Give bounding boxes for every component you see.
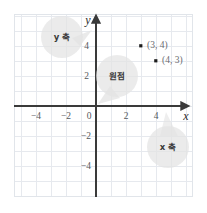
y-tick-4: 4 (84, 41, 89, 51)
coordinate-plane-figure: x y −4 −2 0 2 4 4 2 −2 −4 (3, 4) (4, 3) (0, 0, 207, 213)
y-tick-2: 2 (84, 71, 89, 81)
y-tick--2: −2 (81, 131, 91, 141)
callout-y-axis-label: y 축 (54, 32, 71, 42)
x-tick--4: −4 (31, 111, 41, 121)
data-point-4-3 (154, 59, 157, 62)
callout-origin-label: 원점 (109, 71, 125, 81)
data-point-label-4-3: (4, 3) (162, 55, 183, 66)
x-tick--2: −2 (61, 111, 71, 121)
x-tick-2: 2 (124, 111, 129, 121)
data-point-3-4 (139, 44, 142, 47)
x-tick-4: 4 (154, 111, 159, 121)
y-tick--4: −4 (81, 161, 91, 171)
data-point-label-3-4: (3, 4) (147, 40, 168, 51)
x-axis-name: x (182, 109, 189, 123)
callout-x-axis-label: x 축 (160, 142, 176, 152)
plot-canvas: x y −4 −2 0 2 4 4 2 −2 −4 (3, 4) (4, 3) (0, 0, 207, 213)
y-axis-name: y (84, 13, 91, 27)
origin-tick-label: 0 (87, 111, 92, 121)
